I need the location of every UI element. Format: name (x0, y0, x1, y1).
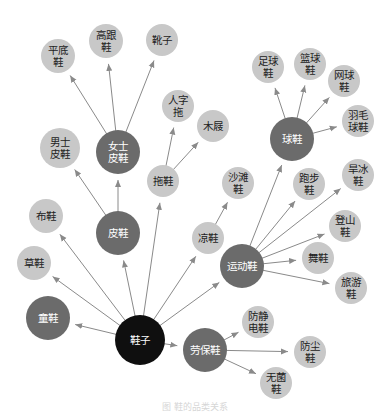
node-label: 舞鞋 (308, 252, 329, 264)
node-cloth: 布鞋 (29, 199, 63, 233)
edge-safety-to-antistatic (223, 332, 239, 340)
node-straw: 草鞋 (17, 246, 51, 280)
edge-shoes-to-slippers (143, 203, 160, 317)
edge-sports-to-running (255, 201, 295, 251)
edge-sports-to-dance (262, 260, 296, 264)
edge-leather-to-men-leather (75, 170, 107, 217)
node-label: 拖 (173, 106, 184, 118)
node-label: 球鞋 (348, 121, 369, 133)
node-sports: 运动鞋 (220, 244, 264, 288)
edge-slippers-to-flipflops (166, 128, 174, 168)
node-label: 羽毛 (348, 109, 369, 121)
edge-slippers-to-clogs (172, 142, 198, 170)
node-ball: 球鞋 (270, 117, 314, 161)
node-label: 鞋 (305, 64, 316, 76)
node-running: 跑步鞋 (293, 168, 325, 200)
node-label: 沙滩 (228, 171, 249, 183)
node-boots: 靴子 (146, 24, 178, 56)
node-label: 鞋 (263, 67, 274, 79)
node-label: 鞋 (304, 184, 315, 196)
node-safety: 劳保鞋 (183, 328, 227, 372)
nodes-layer: 鞋子童鞋草鞋布鞋皮鞋男士皮鞋女士皮鞋平底鞋高跟鞋靴子拖鞋人字拖木屐沙滩鞋凉鞋运动… (17, 24, 374, 399)
node-label: 鞋 (340, 226, 351, 238)
node-label: 球鞋 (282, 133, 303, 145)
node-label: 鞋 (353, 175, 364, 187)
node-label: 鞋 (346, 288, 357, 300)
edge-safety-to-dustproof (225, 350, 288, 351)
node-sterile: 无菌鞋 (260, 367, 292, 399)
node-label: 皮鞋 (108, 152, 129, 164)
node-women-leather: 女士皮鞋 (96, 130, 140, 174)
node-label: 运动鞋 (227, 260, 258, 272)
edge-shoes-to-sandals (153, 256, 196, 321)
edge-shoes-to-kids (75, 325, 117, 335)
node-label: 高跟 (96, 29, 117, 41)
node-label: 鞋 (339, 81, 350, 93)
node-label: 电鞋 (248, 322, 269, 334)
node-kids: 童鞋 (26, 296, 70, 340)
edge-women-leather-to-heels (109, 64, 116, 132)
node-label: 草鞋 (24, 257, 45, 269)
node-label: 劳保鞋 (190, 344, 221, 356)
node-label: 鞋 (233, 183, 244, 195)
node-label: 男士 (50, 136, 70, 148)
node-hiking: 登山鞋 (329, 210, 361, 242)
node-label: 平底 (48, 44, 69, 56)
edge-safety-to-sterile (223, 358, 256, 373)
node-label: 皮鞋 (108, 227, 129, 239)
node-leather: 皮鞋 (96, 211, 140, 255)
edge-ball-to-tennis (305, 97, 329, 124)
node-label: 女士 (108, 140, 128, 152)
edge-women-leather-to-boots (125, 61, 154, 134)
node-label: 人字 (168, 94, 188, 106)
node-label: 凉鞋 (198, 232, 219, 244)
node-label: 旱冰 (348, 163, 369, 175)
node-flats: 平底鞋 (41, 39, 75, 73)
node-dustproof: 防尘鞋 (294, 336, 326, 368)
node-badminton: 羽毛球鞋 (342, 105, 374, 137)
edge-ball-to-football (275, 88, 286, 120)
node-dance: 舞鞋 (302, 242, 334, 274)
node-shoes: 鞋子 (115, 315, 165, 365)
node-label: 无菌 (266, 371, 286, 383)
node-basketball: 篮球鞋 (294, 48, 326, 80)
node-label: 鞋 (271, 383, 282, 395)
edge-ball-to-badminton (311, 127, 337, 134)
shoe-category-diagram: 鞋子童鞋草鞋布鞋皮鞋男士皮鞋女士皮鞋平底鞋高跟鞋靴子拖鞋人字拖木屐沙滩鞋凉鞋运动… (0, 0, 390, 418)
edge-shoes-to-leather (124, 260, 136, 317)
node-sandals: 凉鞋 (192, 222, 224, 254)
node-label: 篮球 (300, 52, 321, 64)
node-travel: 旅游鞋 (335, 272, 367, 304)
node-label: 皮鞋 (50, 148, 71, 160)
edge-sports-to-ball (249, 165, 281, 247)
node-clogs: 木屐 (197, 110, 229, 142)
node-men-leather: 男士皮鞋 (40, 128, 80, 168)
node-beach: 沙滩鞋 (222, 167, 254, 199)
node-antistatic: 防静电鞋 (242, 306, 274, 338)
node-label: 防尘 (300, 340, 321, 352)
edge-sandals-to-beach (215, 202, 228, 225)
node-label: 布鞋 (36, 210, 57, 222)
node-label: 网球 (334, 69, 355, 81)
node-label: 登山 (335, 214, 355, 226)
node-label: 鞋子 (130, 334, 150, 346)
node-flipflops: 人字拖 (162, 90, 194, 122)
node-label: 拖鞋 (153, 175, 174, 187)
node-slippers: 拖鞋 (147, 165, 179, 197)
edge-ball-to-basketball (297, 85, 305, 119)
node-label: 鞋 (101, 41, 112, 53)
node-label: 鞋 (305, 352, 316, 364)
node-label: 鞋 (53, 56, 64, 68)
node-label: 旅游 (341, 276, 362, 288)
edge-women-leather-to-flats (70, 76, 107, 136)
edges-layer (53, 61, 341, 374)
node-label: 木屐 (203, 120, 224, 132)
figure-caption: 图 鞋的品类关系 (0, 400, 390, 413)
node-label: 防静 (248, 310, 269, 322)
edge-shoes-to-safety (163, 344, 178, 346)
node-heels: 高跟鞋 (89, 24, 123, 58)
node-label: 靴子 (152, 34, 172, 46)
node-label: 跑步 (299, 172, 319, 184)
node-tennis: 网球鞋 (328, 65, 360, 97)
node-label: 童鞋 (38, 312, 59, 324)
